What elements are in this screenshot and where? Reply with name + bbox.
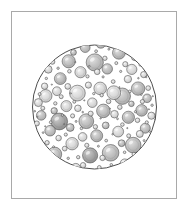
particle-highlight <box>108 39 110 41</box>
particle <box>42 132 44 134</box>
particle <box>75 67 86 78</box>
particle <box>41 83 47 89</box>
particle <box>66 178 68 180</box>
particle <box>82 111 84 113</box>
particle <box>45 66 53 74</box>
particle <box>85 181 87 183</box>
particle <box>117 118 119 120</box>
particle-field-illustration: Circular microscopic field of view with … <box>0 0 188 214</box>
particle <box>75 105 82 112</box>
particle <box>94 69 100 75</box>
particle <box>146 76 147 77</box>
particle <box>113 46 126 59</box>
particle <box>107 38 113 44</box>
particle <box>108 48 110 50</box>
particle-highlight <box>133 54 136 57</box>
particle-highlight <box>90 174 93 176</box>
particle <box>50 59 55 64</box>
particle <box>73 100 76 103</box>
particle <box>80 43 90 53</box>
particle <box>102 122 109 129</box>
particle <box>112 133 114 135</box>
particle <box>34 110 36 112</box>
particle <box>75 120 77 122</box>
particle <box>94 82 107 95</box>
particle <box>131 82 144 95</box>
particle <box>59 95 63 99</box>
particle <box>34 99 42 107</box>
particle <box>103 56 107 60</box>
particle <box>140 100 144 104</box>
particle <box>134 111 136 113</box>
particle <box>66 138 78 150</box>
particle-highlight <box>98 41 101 44</box>
particle <box>136 105 148 117</box>
particle <box>38 93 41 96</box>
particle <box>57 67 59 69</box>
particle <box>122 36 123 37</box>
particle <box>120 159 129 168</box>
particle <box>105 139 108 142</box>
particle <box>41 106 45 110</box>
particle <box>67 157 69 159</box>
particle <box>149 131 151 133</box>
particle <box>70 38 72 40</box>
particle <box>152 96 153 97</box>
particle-highlight <box>61 46 64 49</box>
particle <box>48 147 62 161</box>
particle <box>97 104 111 118</box>
particle <box>106 99 111 104</box>
particle <box>60 163 67 170</box>
particle <box>88 98 98 108</box>
particle <box>54 102 57 105</box>
particle <box>36 111 46 121</box>
particle <box>75 62 76 63</box>
particle <box>37 116 38 117</box>
particle <box>114 174 119 179</box>
particle <box>100 118 101 119</box>
particle <box>98 29 99 30</box>
particle <box>130 183 131 184</box>
particle <box>135 118 140 123</box>
particle <box>88 65 90 67</box>
particle <box>127 64 137 74</box>
particle <box>102 76 104 78</box>
particle <box>73 186 74 187</box>
particle <box>51 84 52 85</box>
particle <box>142 148 143 149</box>
particle <box>86 29 87 30</box>
particle <box>80 163 85 168</box>
particle <box>51 108 57 114</box>
particle <box>83 148 98 163</box>
particle <box>49 121 52 124</box>
particle <box>148 112 155 119</box>
particle <box>127 134 131 138</box>
particle <box>121 123 125 127</box>
particle <box>138 77 140 79</box>
particle <box>143 140 145 142</box>
particle <box>88 111 93 116</box>
particle <box>70 85 86 101</box>
particle <box>97 145 99 147</box>
particle <box>122 111 134 123</box>
particle <box>113 126 124 137</box>
particle <box>134 163 135 164</box>
particle <box>78 133 87 142</box>
particle-highlight <box>106 170 109 173</box>
particle <box>93 125 97 129</box>
particle <box>70 93 71 94</box>
particle <box>105 34 107 36</box>
particle <box>111 80 115 84</box>
particle <box>100 94 103 97</box>
particle <box>54 73 66 85</box>
particle <box>48 153 50 155</box>
particle <box>61 101 72 112</box>
particle <box>148 109 149 110</box>
particle <box>119 87 120 88</box>
particle <box>151 104 153 106</box>
particle <box>126 171 128 173</box>
particle <box>65 84 71 90</box>
particle <box>45 77 47 79</box>
particle <box>61 114 63 116</box>
particle <box>115 62 118 65</box>
